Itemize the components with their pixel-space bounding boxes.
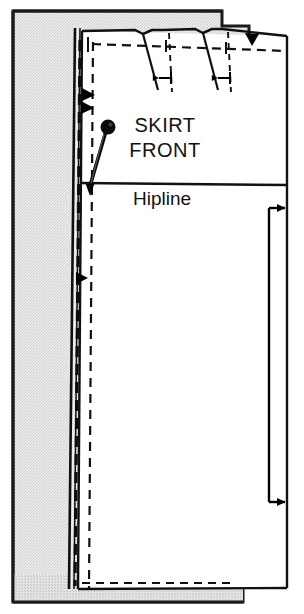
pattern-piece-name-line2: FRONT — [26, 138, 304, 163]
pattern-diagram-canvas: SKIRT FRONT Hipline — [0, 0, 304, 614]
pattern-piece-name: SKIRT FRONT — [0, 113, 304, 163]
pattern-piece-name-line1: SKIRT — [26, 113, 304, 138]
pattern-diagram-svg — [0, 0, 304, 614]
hipline-label: Hipline — [0, 188, 304, 210]
